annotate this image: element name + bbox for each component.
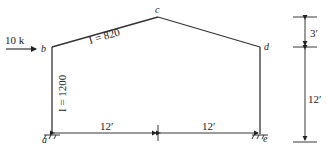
column-inertia-label: I = 1200 (56, 74, 68, 112)
span-right-label: 12′ (202, 120, 215, 132)
column-height-label: 12′ (308, 93, 321, 105)
frame-members (52, 17, 260, 134)
joint-e-label: e (263, 133, 268, 144)
span-dimension (54, 125, 258, 141)
frame-diagram: 10 k a b c d e I = 820 I = 1200 12′ 12′ … (0, 0, 327, 157)
load-label: 10 k (5, 34, 25, 46)
joint-a-label: a (42, 134, 47, 145)
joint-d-label: d (264, 41, 270, 52)
rafter-inertia-label: I = 820 (87, 25, 121, 45)
rise-label: 3′ (310, 27, 318, 39)
rafter-cd (158, 17, 260, 47)
joint-b-label: b (41, 43, 46, 54)
span-left-label: 12′ (100, 120, 113, 132)
joint-c-label: c (155, 4, 160, 15)
